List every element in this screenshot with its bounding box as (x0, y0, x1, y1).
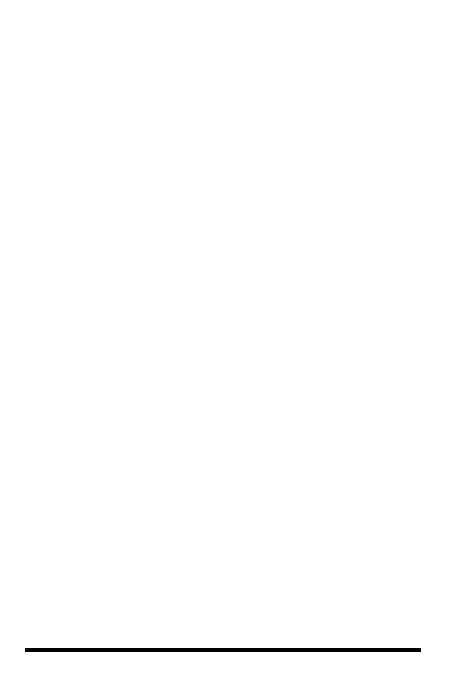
value-axis-baseline (25, 648, 421, 652)
rotated-chart-canvas (0, 0, 455, 685)
chart-plot-area (0, 0, 455, 685)
chart-screenshot (0, 0, 455, 685)
